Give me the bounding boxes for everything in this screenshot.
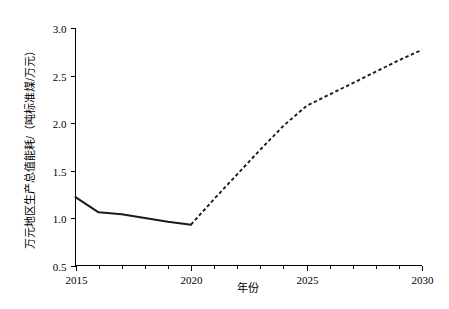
y-tick-label: 1.5 (53, 166, 67, 178)
x-tick-label: 2020 (181, 274, 204, 286)
series-line-forecast (191, 50, 422, 225)
y-axis-tick-labels: 0.51.01.52.02.53.0 (53, 23, 67, 273)
x-tick-label: 2030 (412, 274, 435, 286)
y-tick-label: 0.5 (53, 261, 67, 273)
x-axis-ticks (77, 266, 423, 271)
y-tick-label: 2.5 (53, 71, 67, 83)
y-tick-label: 3.0 (53, 23, 67, 35)
line-chart: 0.51.01.52.02.53.0 2015202020252030 年份 万… (0, 0, 449, 309)
x-tick-label: 2025 (297, 274, 320, 286)
series-line-historical (76, 197, 192, 225)
chart-container: 0.51.01.52.02.53.0 2015202020252030 年份 万… (0, 0, 449, 309)
y-axis-ticks (71, 29, 76, 267)
x-axis-title: 年份 (237, 281, 259, 294)
y-tick-label: 1.0 (53, 213, 67, 225)
y-axis-title: 万元地区生产总值能耗/（吨标准煤/万元） (23, 45, 36, 249)
y-tick-label: 2.0 (53, 118, 67, 130)
x-tick-label: 2015 (66, 274, 89, 286)
